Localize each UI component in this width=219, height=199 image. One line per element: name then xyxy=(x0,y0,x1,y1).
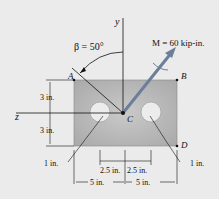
dim-hole-right-radius: 1 in. xyxy=(190,159,204,168)
label-B: B xyxy=(181,71,187,81)
label-C: C xyxy=(127,114,134,124)
beam-cross-section-diagram: y z β = 50° M = 60 kip-in. A B C D 3 in.… xyxy=(0,0,219,199)
moment-label: M = 60 kip-in. xyxy=(152,38,205,48)
dim-hole-offset-left: 2.5 in. xyxy=(100,166,120,175)
dim-half-width-right: 5 in. xyxy=(136,178,150,187)
angle-arc xyxy=(80,52,123,73)
axis-z-label: z xyxy=(14,111,19,122)
dim-top-half: 3 in. xyxy=(40,93,54,102)
label-D: D xyxy=(180,140,188,150)
point-D xyxy=(176,145,179,148)
angle-label: β = 50° xyxy=(74,41,104,52)
hole-right xyxy=(141,102,161,122)
dim-half-width-left: 5 in. xyxy=(90,178,104,187)
dim-bottom-half: 3 in. xyxy=(40,126,54,135)
point-B xyxy=(176,79,179,82)
hole-left xyxy=(90,102,110,122)
axis-y-label: y xyxy=(114,16,120,27)
dim-hole-offset-right: 2.5 in. xyxy=(127,166,147,175)
label-A: A xyxy=(67,71,74,81)
point-C xyxy=(121,111,125,115)
dim-hole-left-radius: 1 in. xyxy=(44,159,58,168)
